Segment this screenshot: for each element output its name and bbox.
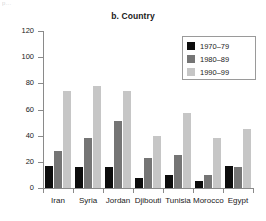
bar xyxy=(54,151,62,188)
cropped-text-artifact: p... xyxy=(2,0,36,7)
bar xyxy=(144,158,152,188)
bar-group xyxy=(45,31,71,188)
y-axis-tick-label: 80 xyxy=(0,79,34,87)
y-axis-tick xyxy=(38,136,43,137)
bar xyxy=(63,91,71,188)
y-axis-tick xyxy=(38,162,43,163)
bar-group xyxy=(75,31,101,188)
bar xyxy=(213,138,221,188)
x-axis-label: Iran xyxy=(43,196,73,205)
x-axis-tick xyxy=(253,189,254,193)
legend-swatch-icon xyxy=(187,55,195,63)
bar-group xyxy=(105,31,131,188)
legend-item: 1970–79 xyxy=(187,40,251,52)
x-axis-label: Jordan xyxy=(103,196,133,205)
y-axis-line xyxy=(43,31,44,189)
legend-item: 1990–99 xyxy=(187,66,251,78)
bar xyxy=(174,155,182,188)
legend-label: 1970–79 xyxy=(200,42,229,51)
y-axis-tick xyxy=(38,57,43,58)
legend-swatch-icon xyxy=(187,68,195,76)
legend: 1970–79 1980–89 1990–99 xyxy=(182,36,256,80)
x-axis-tick xyxy=(163,189,164,193)
legend-item: 1980–89 xyxy=(187,53,251,65)
x-axis-label: Syria xyxy=(73,196,103,205)
bar xyxy=(123,91,131,188)
chart-title: b. Country xyxy=(0,11,266,21)
bar xyxy=(84,138,92,188)
x-axis-label: Morocco xyxy=(193,196,223,205)
legend-label: 1990–99 xyxy=(200,68,229,77)
y-axis-tick-label: 100 xyxy=(0,53,34,61)
bar xyxy=(234,167,242,188)
bar xyxy=(225,166,233,188)
country-bar-chart: p... b. Country 020406080100120 IranSyri… xyxy=(0,0,266,221)
bar xyxy=(165,175,173,188)
y-axis-tick xyxy=(38,31,43,32)
bar xyxy=(114,121,122,188)
x-axis-label: Tunisia xyxy=(163,196,193,205)
bar xyxy=(75,167,83,188)
bar xyxy=(195,181,203,188)
x-axis-tick xyxy=(193,189,194,193)
x-axis-tick xyxy=(73,189,74,193)
bar xyxy=(135,178,143,188)
x-axis-tick xyxy=(223,189,224,193)
y-axis-tick-label: 20 xyxy=(0,158,34,166)
x-axis-tick xyxy=(133,189,134,193)
y-axis-tick-label: 60 xyxy=(0,106,34,114)
y-axis-tick xyxy=(38,110,43,111)
y-axis-tick-label: 120 xyxy=(0,27,34,35)
bar xyxy=(93,86,101,188)
x-axis-tick xyxy=(103,189,104,193)
bar-group xyxy=(135,31,161,188)
bar xyxy=(105,167,113,188)
y-axis-tick xyxy=(38,83,43,84)
legend-label: 1980–89 xyxy=(200,55,229,64)
bar xyxy=(153,136,161,188)
bar xyxy=(204,175,212,188)
bar xyxy=(45,166,53,188)
bar xyxy=(183,113,191,188)
x-axis-tick xyxy=(43,189,44,193)
x-axis-label: Djibouti xyxy=(133,196,163,205)
x-axis-label: Egypt xyxy=(223,196,253,205)
y-axis-tick-label: 0 xyxy=(0,184,34,192)
bar xyxy=(243,129,251,188)
y-axis-tick-label: 40 xyxy=(0,132,34,140)
legend-swatch-icon xyxy=(187,42,195,50)
